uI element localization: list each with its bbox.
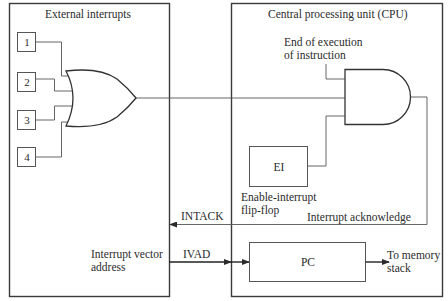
to-memory-label-line2: stack [387, 262, 411, 274]
end-exec-label-line1: End of execution [284, 36, 363, 48]
ivad-label: IVAD [183, 248, 210, 260]
ei-caption-line2: flip-flop [241, 204, 279, 216]
vector-address-label-line2: address [91, 261, 126, 273]
interrupt-source-3-label: 3 [18, 114, 36, 126]
diagram-canvas [0, 0, 448, 301]
interrupt-source-2-label: 2 [18, 76, 36, 88]
end-exec-wire [326, 64, 345, 79]
interrupt-source-4-label: 4 [18, 151, 36, 163]
to-memory-label-line1: To memory [387, 249, 440, 261]
cpu-title: Central processing unit (CPU) [268, 8, 408, 20]
interrupt-acknowledge-label: Interrupt acknowledge [307, 211, 411, 223]
intack-label: INTACK [181, 210, 224, 222]
external-interrupts-title: External interrupts [45, 8, 131, 20]
pc-box-label: PC [250, 256, 366, 268]
vector-address-label-line1: Interrupt vector [91, 248, 163, 260]
or-gate [66, 70, 136, 127]
end-exec-label-line2: of instruction [284, 49, 346, 61]
or-input-wires [36, 42, 74, 157]
interrupt-source-1-label: 1 [18, 36, 36, 48]
ei-to-and-wire [308, 116, 346, 166]
ei-box-label: EI [250, 161, 308, 173]
and-gate [345, 70, 410, 125]
ei-caption-line1: Enable-interrupt [241, 191, 316, 203]
